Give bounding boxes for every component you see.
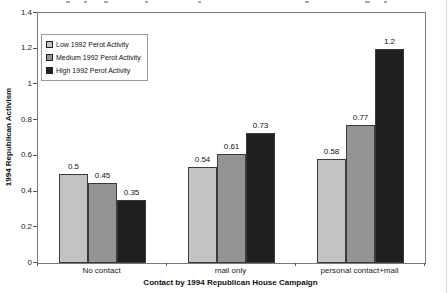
bar-personal-contact-mail-s2 bbox=[375, 49, 404, 263]
bar-value-label: 0.73 bbox=[253, 121, 269, 130]
figure-bar-chart: 1994 Republican Activism 0.50.450.350.54… bbox=[0, 0, 448, 293]
bar-no-contact-s0 bbox=[59, 174, 88, 263]
y-tick-mark bbox=[33, 155, 37, 156]
category-label: No contact bbox=[82, 266, 120, 275]
y-tick-label: 0.4 bbox=[0, 186, 32, 195]
bar-mail-only-s0 bbox=[188, 167, 217, 263]
legend-item: Low 1992 Perot Activity bbox=[46, 39, 141, 50]
category-label: personal contact+mail bbox=[320, 266, 398, 275]
y-tick-mark bbox=[33, 191, 37, 192]
bar-value-label: 0.61 bbox=[224, 142, 240, 151]
bar-personal-contact-mail-s0 bbox=[317, 159, 346, 263]
bar-value-label: 0.35 bbox=[124, 188, 140, 197]
y-tick-label: 1.4 bbox=[0, 8, 32, 17]
bar-value-label: 0.54 bbox=[195, 155, 211, 164]
x-tick-mark bbox=[166, 263, 167, 266]
scan-page-edge-line bbox=[446, 0, 447, 293]
legend-item: Medium 1992 Perot Activity bbox=[46, 52, 141, 63]
bar-value-label: 0.77 bbox=[353, 113, 369, 122]
y-tick-mark bbox=[33, 226, 37, 227]
y-tick-label: 1.2 bbox=[0, 43, 32, 52]
legend-item-label: Low 1992 Perot Activity bbox=[56, 40, 129, 49]
bar-no-contact-s2 bbox=[117, 200, 146, 263]
bar-mail-only-s2 bbox=[246, 133, 275, 263]
y-tick-label: 0.8 bbox=[0, 115, 32, 124]
y-tick-label: 1 bbox=[0, 79, 32, 88]
y-tick-mark bbox=[33, 119, 37, 120]
bar-value-label: 0.45 bbox=[95, 171, 111, 180]
cropped-text-remnant bbox=[0, 0, 448, 3]
bar-value-label: 0.5 bbox=[68, 162, 79, 171]
bar-value-label: 0.58 bbox=[324, 147, 340, 156]
y-tick-label: 0.6 bbox=[0, 150, 32, 159]
legend-swatch-icon bbox=[46, 54, 53, 61]
y-tick-mark bbox=[33, 48, 37, 49]
x-tick-mark bbox=[424, 263, 425, 266]
bar-value-label: 1.2 bbox=[384, 37, 395, 46]
y-tick-mark bbox=[33, 12, 37, 13]
x-axis-title: Contact by 1994 Republican House Campaig… bbox=[37, 278, 424, 287]
y-tick-label: 0.2 bbox=[0, 222, 32, 231]
legend: Low 1992 Perot ActivityMedium 1992 Perot… bbox=[41, 34, 148, 81]
x-tick-mark bbox=[295, 263, 296, 266]
bar-mail-only-s1 bbox=[217, 154, 246, 263]
legend-swatch-icon bbox=[46, 41, 53, 48]
category-label: mail only bbox=[215, 266, 247, 275]
bar-no-contact-s1 bbox=[88, 183, 117, 263]
legend-item-label: Medium 1992 Perot Activity bbox=[56, 53, 141, 62]
legend-item: High 1992 Perot Activity bbox=[46, 65, 141, 76]
y-tick-mark bbox=[33, 83, 37, 84]
y-tick-label: 0 bbox=[0, 258, 32, 267]
legend-item-label: High 1992 Perot Activity bbox=[56, 66, 130, 75]
x-tick-mark bbox=[37, 263, 38, 266]
bar-personal-contact-mail-s1 bbox=[346, 125, 375, 263]
legend-swatch-icon bbox=[46, 67, 53, 74]
